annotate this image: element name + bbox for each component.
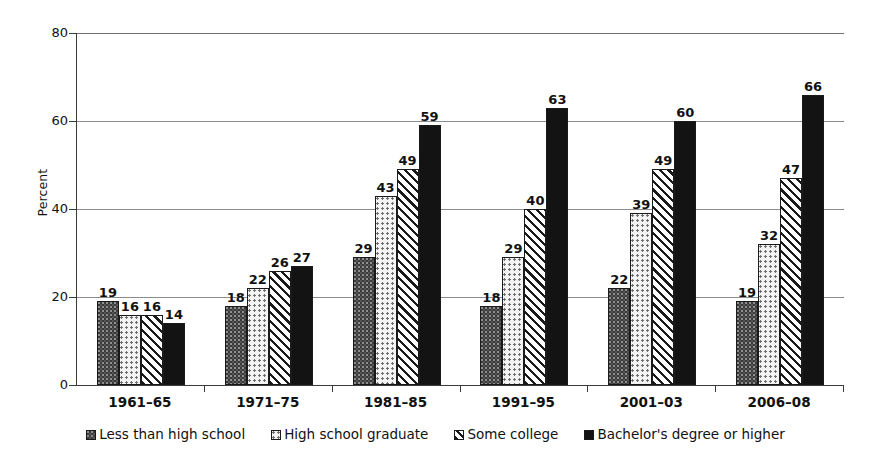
bar [546, 108, 568, 385]
bar [780, 178, 802, 385]
bar [119, 315, 141, 385]
bar-value-label: 18 [474, 291, 508, 304]
y-axis-tick-mark [69, 297, 76, 298]
bar-value-label: 66 [796, 80, 830, 93]
y-axis-tick-label: 20 [30, 290, 68, 303]
x-axis-tick-mark [460, 385, 461, 392]
bar [524, 209, 546, 385]
bar-value-label: 60 [668, 106, 702, 119]
bar [225, 306, 247, 385]
bar-value-label: 40 [518, 194, 552, 207]
legend-swatch-icon [86, 430, 96, 440]
legend-label: Some college [467, 428, 558, 442]
x-axis-tick-mark [715, 385, 716, 392]
bar-value-label: 47 [774, 163, 808, 176]
bar [397, 169, 419, 385]
gridline [77, 33, 844, 34]
y-axis-tick-mark [69, 121, 76, 122]
y-axis-tick-label: 60 [30, 114, 68, 127]
legend-label: Bachelor's degree or higher [597, 428, 784, 442]
gridline [77, 209, 844, 210]
bar [630, 213, 652, 385]
bar-value-label: 19 [730, 286, 764, 299]
bar [163, 323, 185, 385]
bar-value-label: 32 [752, 229, 786, 242]
bar [97, 301, 119, 385]
gridline [77, 297, 844, 298]
bar [608, 288, 630, 385]
y-axis-tick-mark [69, 33, 76, 34]
chart-legend: Less than high schoolHigh school graduat… [0, 428, 871, 442]
legend-swatch-icon [271, 430, 281, 440]
bar-value-label: 22 [602, 273, 636, 286]
x-axis-tick-mark [332, 385, 333, 392]
x-axis-tick-mark [587, 385, 588, 392]
bar [375, 196, 397, 385]
bar-value-label: 49 [646, 154, 680, 167]
y-axis-tick-mark [69, 385, 76, 386]
legend-entry: Bachelor's degree or higher [584, 428, 784, 442]
bar-value-label: 22 [241, 273, 275, 286]
bar [480, 306, 502, 385]
x-axis-tick-label: 2006–08 [715, 394, 843, 410]
bar [141, 315, 163, 385]
bar-value-label: 14 [157, 308, 191, 321]
y-axis-tick-label: 0 [30, 378, 68, 391]
bar [502, 257, 524, 385]
gridline [77, 121, 844, 122]
x-axis-tick-label: 1971–75 [204, 394, 332, 410]
bar-value-label: 19 [91, 286, 125, 299]
x-axis-tick-mark [843, 385, 844, 392]
bar-value-label: 39 [624, 198, 658, 211]
bar-value-label: 29 [347, 242, 381, 255]
bar [802, 95, 824, 385]
bar-value-label: 59 [413, 110, 447, 123]
legend-entry: High school graduate [271, 428, 428, 442]
x-axis-tick-label: 1981–85 [332, 394, 460, 410]
y-axis-tick-label: 40 [30, 202, 68, 215]
bar [269, 271, 291, 385]
bar-value-label: 29 [496, 242, 530, 255]
legend-entry: Less than high school [86, 428, 245, 442]
x-axis-tick-label: 1961–65 [76, 394, 204, 410]
bar-value-label: 27 [285, 251, 319, 264]
legend-label: High school graduate [284, 428, 428, 442]
bar-value-label: 43 [369, 181, 403, 194]
bar-value-label: 63 [540, 93, 574, 106]
legend-swatch-icon [584, 430, 594, 440]
x-axis-tick-mark [204, 385, 205, 392]
legend-swatch-icon [454, 430, 464, 440]
y-axis-title: Percent [35, 133, 50, 253]
bar [736, 301, 758, 385]
bar-value-label: 18 [219, 291, 253, 304]
legend-label: Less than high school [99, 428, 245, 442]
y-axis-tick-mark [69, 209, 76, 210]
x-axis-tick-label: 1991–95 [460, 394, 588, 410]
x-axis-tick-label: 2001–03 [587, 394, 715, 410]
bar-chart: Percent 020406080 1916161418222627294349… [0, 0, 871, 465]
legend-entry: Some college [454, 428, 558, 442]
bar [291, 266, 313, 385]
y-axis-tick-label: 80 [30, 26, 68, 39]
bar [353, 257, 375, 385]
bar [758, 244, 780, 385]
plot-area: 1916161418222627294349591829406322394960… [76, 33, 844, 386]
bar-value-label: 49 [391, 154, 425, 167]
